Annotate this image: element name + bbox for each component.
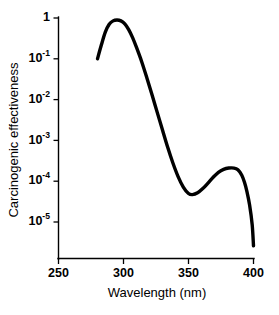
y-axis-ticks xyxy=(54,18,59,222)
x-tick-label-300: 300 xyxy=(113,266,134,280)
action-spectrum-chart: 1 10-1 10-2 10-3 10-4 10-5 250 300 350 4… xyxy=(0,0,279,315)
x-tick-label-350: 350 xyxy=(178,266,199,280)
y-axis-title: Carcinogenic effectiveness xyxy=(6,62,21,218)
y-tick-label-2: 10-2 xyxy=(28,89,50,106)
x-tick-label-250: 250 xyxy=(48,266,69,280)
y-tick-label-0: 1 xyxy=(43,10,50,24)
y-tick-label-4: 10-4 xyxy=(28,170,50,187)
y-tick-label-1: 10-1 xyxy=(28,48,50,65)
x-axis-ticks xyxy=(59,259,254,265)
y-tick-label-3: 10-3 xyxy=(28,130,50,147)
chart-figure: 1 10-1 10-2 10-3 10-4 10-5 250 300 350 4… xyxy=(0,0,279,315)
data-curve-line xyxy=(98,20,254,246)
x-axis-tick-labels: 250 300 350 400 xyxy=(48,266,264,280)
y-axis-tick-labels: 1 10-1 10-2 10-3 10-4 10-5 xyxy=(28,10,50,228)
y-tick-label-5: 10-5 xyxy=(28,211,50,228)
x-tick-label-400: 400 xyxy=(243,266,264,280)
x-axis-title: Wavelength (nm) xyxy=(108,285,207,300)
